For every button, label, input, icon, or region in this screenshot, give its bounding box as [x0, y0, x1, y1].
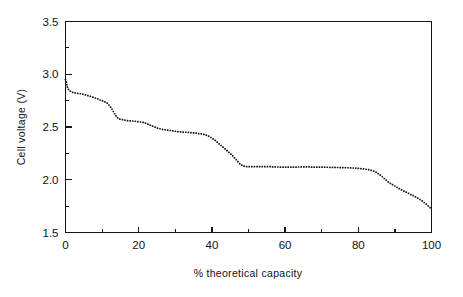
data-point [65, 81, 67, 83]
data-point [394, 185, 396, 187]
data-point [169, 130, 171, 132]
data-point [235, 159, 237, 161]
data-point [111, 108, 113, 110]
data-point [79, 93, 81, 95]
data-point [226, 150, 228, 152]
data-point [410, 194, 412, 196]
data-point [203, 133, 205, 135]
data-point [277, 166, 279, 168]
x-tick-label: 80 [352, 239, 365, 251]
data-point [390, 182, 392, 184]
data-point [234, 157, 236, 159]
data-point [419, 199, 421, 201]
data-point [412, 195, 414, 197]
data-point [401, 189, 403, 191]
data-point [381, 176, 383, 178]
data-point [104, 101, 106, 103]
data-point [200, 133, 202, 135]
data-point [142, 122, 144, 124]
data-point [97, 98, 99, 100]
data-point [66, 84, 68, 86]
data-point [355, 167, 357, 169]
data-point [423, 202, 425, 204]
data-point [90, 96, 92, 98]
data-point [182, 131, 184, 133]
data-point [175, 130, 177, 132]
data-point [365, 168, 367, 170]
data-point [379, 174, 381, 176]
data-point [152, 125, 154, 127]
data-series-points [65, 79, 431, 209]
data-point [363, 168, 365, 170]
data-point [403, 190, 405, 192]
data-point [316, 166, 318, 168]
data-point [112, 111, 114, 113]
data-point [269, 166, 271, 168]
data-point [352, 167, 354, 169]
data-point [425, 203, 427, 205]
data-point [392, 184, 394, 186]
data-point [193, 132, 195, 134]
data-point [167, 129, 169, 131]
data-point [370, 169, 372, 171]
data-point [295, 166, 297, 168]
data-point [140, 121, 142, 123]
data-point [387, 181, 389, 183]
data-point [132, 120, 134, 122]
data-point [224, 148, 226, 150]
data-point [82, 93, 84, 95]
data-point [129, 120, 131, 122]
data-point [162, 128, 164, 130]
data-point [293, 166, 295, 168]
discharge-curve-chart: 020406080100 1.52.02.53.03.5 % theoretic… [0, 0, 463, 297]
data-point [300, 166, 302, 168]
data-point [264, 166, 266, 168]
data-point [114, 113, 116, 115]
data-point [216, 141, 218, 143]
data-point [383, 178, 385, 180]
data-point [99, 99, 101, 101]
y-axis-ticks [66, 22, 72, 233]
data-point [377, 173, 379, 175]
data-point [339, 167, 341, 169]
data-point [243, 165, 245, 167]
data-point [429, 207, 431, 209]
data-point [185, 131, 187, 133]
data-point [72, 91, 74, 93]
y-tick-label: 3.0 [43, 68, 59, 80]
data-point [256, 166, 258, 168]
data-point [326, 166, 328, 168]
y-tick-label: 3.5 [43, 16, 59, 28]
data-point [222, 146, 224, 148]
x-axis-tick-labels: 020406080100 [62, 239, 441, 251]
data-point [134, 120, 136, 122]
data-point [254, 166, 256, 168]
data-point [251, 166, 253, 168]
data-point [154, 126, 156, 128]
data-point [145, 122, 147, 124]
data-point [368, 169, 370, 171]
data-point [230, 153, 232, 155]
data-point [417, 197, 419, 199]
data-point [237, 161, 239, 163]
data-point [408, 193, 410, 195]
data-point [119, 118, 121, 120]
data-point [321, 166, 323, 168]
data-point [398, 188, 400, 190]
data-point [106, 102, 108, 104]
x-axis-title: % theoretical capacity [194, 267, 303, 279]
data-point [159, 128, 161, 130]
data-point [246, 166, 248, 168]
data-point [214, 140, 216, 142]
data-point [427, 205, 429, 207]
data-point [110, 106, 112, 108]
data-point [272, 166, 274, 168]
data-point [285, 166, 287, 168]
data-point [67, 86, 69, 88]
data-point [241, 164, 243, 166]
y-axis-tick-labels: 1.52.02.53.03.5 [43, 16, 59, 239]
data-point [147, 123, 149, 125]
x-tick-label: 40 [206, 239, 219, 251]
data-point [124, 119, 126, 121]
data-point [308, 166, 310, 168]
